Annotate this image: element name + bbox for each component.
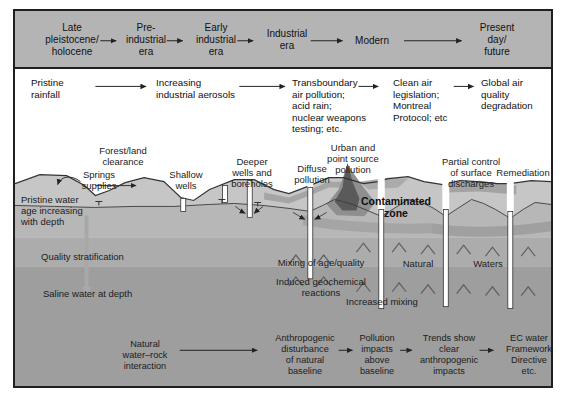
- water-table-marker: [95, 201, 102, 205]
- industrial-deep-well: [379, 209, 384, 308]
- label-mixing-age-quality: Mixing of age/quality: [278, 257, 365, 268]
- timeline-era-present: Present day/ future: [480, 22, 514, 57]
- bottom-anthropogenic: Anthropogenic disturbance of natural bas…: [275, 333, 334, 376]
- label-increased-mixing: Increased mixing: [346, 296, 418, 307]
- remediation-well: [508, 211, 513, 308]
- label-urban-pollution: Urban and point source pollution: [327, 142, 379, 176]
- air-clean-air: Clean air legislation; Montreal Protocol…: [393, 77, 447, 123]
- bottom-trends: Trends show clear anthropogenic impacts: [420, 333, 478, 376]
- label-remediation: Remediation: [496, 167, 549, 178]
- inflow-arrow: [293, 212, 305, 219]
- inflow-arrow: [235, 206, 245, 213]
- water-table-marker: [218, 199, 225, 203]
- label-diffuse-pollution: Diffuse pollution: [294, 163, 329, 185]
- label-springs: Springs supplies: [82, 169, 117, 191]
- plume-right-shading: [359, 178, 408, 190]
- bottom-natural-interaction: Natural water–rock interaction: [123, 339, 168, 372]
- bottom-ec-directive: EC water Framework Directive etc.: [506, 333, 552, 376]
- timeline-era-late-pleistocene: Late pleistocene/ holocene: [45, 22, 98, 57]
- label-waters: Waters: [473, 258, 503, 269]
- label-shallow-wells: Shallow wells: [169, 169, 202, 191]
- inflow-arrow: [254, 206, 263, 213]
- timeline-era-early-industrial: Early industrial era: [196, 22, 236, 57]
- timeline-era-pre-industrial: Pre- industrial era: [126, 22, 166, 57]
- air-transboundary: Transboundary air pollution; acid rain; …: [292, 77, 366, 135]
- springs-arrow: [58, 177, 81, 185]
- label-deeper-wells: Deeper wells and boreholes: [231, 156, 273, 190]
- label-saline-water: Saline water at depth: [43, 288, 132, 299]
- water-table-marker: [254, 202, 261, 206]
- air-pristine-rainfall: Pristine rainfall: [31, 77, 64, 100]
- deeper-well: [222, 186, 227, 203]
- label-natural: Natural: [403, 258, 434, 269]
- shallow-well: [181, 199, 186, 212]
- inflow-arrow: [315, 212, 327, 219]
- label-quality-stratification: Quality stratification: [41, 251, 124, 262]
- bottom-pollution-impacts: Pollution impacts above baseline: [359, 333, 394, 376]
- label-contaminated-zone: Contaminated zone: [361, 195, 431, 220]
- figure-frame: Late pleistocene/ holocene Pre- industri…: [13, 9, 553, 388]
- figure-page: Late pleistocene/ holocene Pre- industri…: [0, 0, 567, 395]
- air-industrial-aerosols: Increasing industrial aerosols: [156, 77, 235, 100]
- air-global-degradation: Global air quality degradation: [481, 77, 533, 112]
- label-partial-control: Partial control of surface discharges: [442, 156, 500, 190]
- aquifer-streak-right: [432, 221, 551, 236]
- label-forest-clearance: Forest/land clearance: [99, 145, 147, 167]
- timeline-era-modern: Modern: [355, 35, 389, 47]
- timeline-era-industrial: Industrial era: [267, 28, 308, 52]
- label-pristine-water: Pristine water age increasing with depth: [21, 194, 83, 228]
- water-table-line: [15, 199, 551, 218]
- controlled-deep-well: [443, 209, 448, 306]
